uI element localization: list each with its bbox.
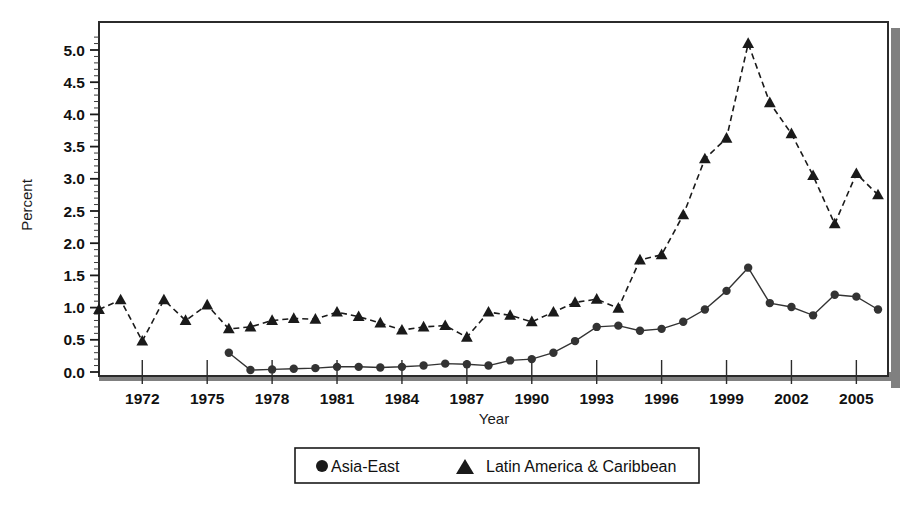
x-tick-label: 1990 [515,390,549,407]
y-tick-label: 4.5 [63,74,85,91]
data-point-marker [636,327,644,335]
y-tick-label: 5.0 [63,42,85,59]
x-tick-label: 1981 [320,390,355,407]
data-point-marker [701,305,709,313]
data-point-marker [463,360,471,368]
x-tick-label: 1987 [450,390,484,407]
data-point-marker [592,323,600,331]
data-point-marker [354,363,362,371]
data-point-marker [484,361,492,369]
data-point-marker [311,364,319,372]
x-tick-label: 2005 [839,390,874,407]
data-point-marker [268,365,276,373]
y-tick-label: 2.5 [63,203,85,220]
data-point-marker [787,303,795,311]
y-tick-label: 3.5 [63,138,85,155]
data-point-marker [376,363,384,371]
y-tick-label: 4.0 [63,106,85,123]
data-point-marker [246,366,254,374]
y-axis: 0.00.51.01.52.02.53.03.54.04.55.0 [63,42,99,381]
y-tick-label: 2.0 [63,235,85,252]
x-tick-label: 1984 [385,390,420,407]
data-point-marker [831,291,839,299]
data-point-marker [419,361,427,369]
data-point-marker [333,363,341,371]
x-tick-label: 1975 [190,390,225,407]
data-point-marker [571,337,579,345]
x-tick-label: 2002 [774,390,808,407]
data-point-marker [657,325,665,333]
x-tick-label: 1999 [709,390,744,407]
data-point-marker [549,348,557,356]
data-point-marker [614,321,622,329]
circle-marker-icon [316,460,328,472]
plot-frame [99,22,888,376]
y-axis-title: Percent [18,178,35,231]
data-point-marker [506,356,514,364]
y-tick-label: 0.0 [63,364,85,381]
legend-label-asia-east: Asia-East [331,458,400,475]
data-point-marker [441,359,449,367]
data-point-marker [874,305,882,313]
y-tick-label: 1.5 [63,267,85,284]
x-axis-title: Year [479,410,509,427]
data-point-marker [852,292,860,300]
chart-canvas: 0.00.51.01.52.02.53.03.54.04.55.0 197219… [0,0,917,521]
y-tick-label: 1.0 [63,299,85,316]
data-point-marker [722,287,730,295]
data-point-marker [528,355,536,363]
data-point-marker [766,299,774,307]
data-point-marker [679,318,687,326]
data-point-marker [398,363,406,371]
y-tick-label: 3.0 [63,170,85,187]
plot-shadow-right [891,28,900,388]
chart-figure: 0.00.51.01.52.02.53.03.54.04.55.0 197219… [0,0,917,521]
x-tick-label: 1993 [579,390,614,407]
data-point-marker [809,311,817,319]
data-point-marker [290,365,298,373]
data-point-marker [225,348,233,356]
data-point-marker [744,263,752,271]
legend-label-latin-america: Latin America & Caribbean [486,458,676,475]
x-tick-label: 1996 [644,390,679,407]
y-tick-label: 0.5 [63,331,85,348]
x-tick-label: 1978 [255,390,290,407]
x-tick-label: 1972 [125,390,159,407]
